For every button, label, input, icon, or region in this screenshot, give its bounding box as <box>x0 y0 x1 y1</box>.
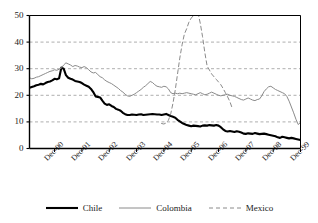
series-line-mexico <box>162 10 233 124</box>
legend-swatch-chile-icon <box>45 204 79 212</box>
y-tick-label: 0 <box>10 144 24 153</box>
plot-area <box>0 0 318 223</box>
y-tick-label: 30 <box>10 64 24 73</box>
y-tick-label: 50 <box>10 11 24 20</box>
y-tick-label: 20 <box>10 91 24 100</box>
series-line-colombia <box>30 63 301 125</box>
gridlines <box>30 16 301 122</box>
legend-swatch-mexico-icon <box>208 204 242 212</box>
y-tick-label: 40 <box>10 38 24 47</box>
legend-item-chile: Chile <box>45 204 103 213</box>
legend-item-colombia: Colombia <box>118 204 192 213</box>
legend-label: Mexico <box>246 204 274 213</box>
axis-lines <box>30 16 301 149</box>
legend-swatch-colombia-icon <box>118 204 152 212</box>
line-chart: 50403020100 Dec-90Dec-91Dec-92Dec-93Dec-… <box>0 0 318 223</box>
legend-item-mexico: Mexico <box>208 204 274 213</box>
chart-legend: ChileColombiaMexico <box>0 198 318 218</box>
legend-label: Colombia <box>156 204 192 213</box>
legend-label: Chile <box>83 204 103 213</box>
series-layer <box>30 10 301 140</box>
series-line-chile <box>30 68 301 140</box>
y-tick-label: 10 <box>10 117 24 126</box>
